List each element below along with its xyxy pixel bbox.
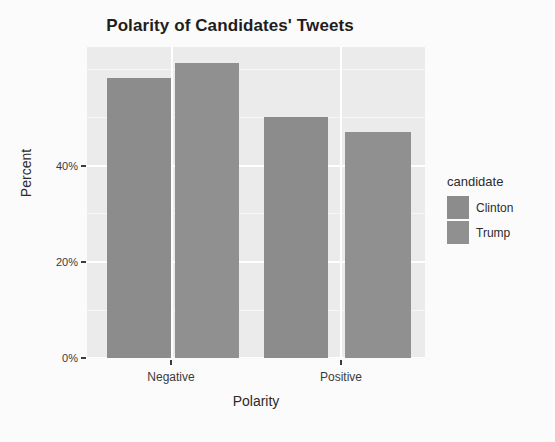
y-tick-label-40: 40% xyxy=(34,160,78,172)
y-axis-title: Percent xyxy=(18,83,34,263)
legend-swatch-trump xyxy=(447,221,469,244)
gridline-major-vertical-positive xyxy=(340,47,342,358)
bar-chart: Polarity of Candidates' Tweets 0% 20% 40… xyxy=(0,0,555,442)
gridline-minor-horizontal-60 xyxy=(87,69,425,70)
plot-panel xyxy=(87,47,425,358)
y-tick-mark-40 xyxy=(81,165,86,167)
legend-label-clinton: Clinton xyxy=(476,201,513,215)
chart-title: Polarity of Candidates' Tweets xyxy=(0,16,460,36)
bar-clinton-positive xyxy=(264,117,328,358)
legend-title: candidate xyxy=(447,174,547,189)
x-tick-mark-negative xyxy=(170,360,172,365)
x-axis-title: Polarity xyxy=(87,393,425,409)
legend-item-trump: Trump xyxy=(447,220,547,245)
y-tick-mark-0 xyxy=(81,357,86,359)
y-tick-mark-20 xyxy=(81,261,86,263)
y-tick-label-0: 0% xyxy=(34,352,78,364)
bar-trump-negative xyxy=(175,63,239,358)
gridline-major-vertical-negative xyxy=(171,47,173,358)
legend-label-trump: Trump xyxy=(476,226,510,240)
y-tick-label-20: 20% xyxy=(34,256,78,268)
y-axis-tick-labels: 0% 20% 40% xyxy=(28,47,78,358)
legend: candidate Clinton Trump xyxy=(447,174,547,245)
legend-swatch-clinton xyxy=(447,196,469,219)
bar-clinton-negative xyxy=(107,78,171,358)
bar-trump-positive xyxy=(345,132,411,358)
x-tick-mark-positive xyxy=(340,360,342,365)
legend-item-clinton: Clinton xyxy=(447,195,547,220)
x-tick-label-positive: Positive xyxy=(281,370,401,384)
x-tick-label-negative: Negative xyxy=(111,370,231,384)
